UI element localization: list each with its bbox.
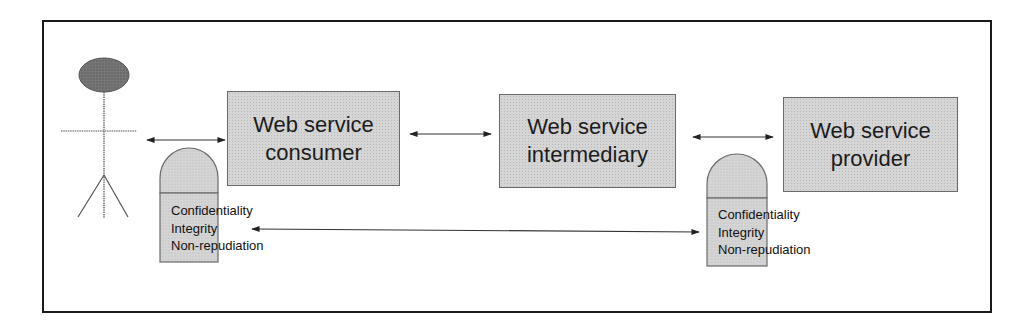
intermediary-label-line2: intermediary <box>527 141 648 169</box>
security-property-confidentiality: Confidentiality <box>171 202 264 220</box>
user-actor-icon <box>61 58 137 218</box>
consumer-label-line2: consumer <box>253 139 374 167</box>
security-property-non-repudiation: Non-repudiation <box>171 237 264 255</box>
web-service-provider-box: Web service provider <box>783 97 958 192</box>
consumer-label-line1: Web service <box>253 111 374 139</box>
intermediary-label-line1: Web service <box>527 113 648 141</box>
security-property-confidentiality: Confidentiality <box>718 206 811 224</box>
security-property-non-repudiation: Non-repudiation <box>718 241 811 259</box>
consumer-shield-label: Confidentiality Integrity Non-repudiatio… <box>171 202 264 255</box>
end-to-end-security-arrow <box>252 229 699 232</box>
provider-label-line1: Web service <box>810 117 931 145</box>
provider-label-line2: provider <box>810 145 931 173</box>
web-service-consumer-box: Web service consumer <box>227 91 400 186</box>
provider-shield-label: Confidentiality Integrity Non-repudiatio… <box>718 206 811 259</box>
security-property-integrity: Integrity <box>718 224 811 242</box>
web-service-intermediary-box: Web service intermediary <box>499 94 676 188</box>
security-property-integrity: Integrity <box>171 220 264 238</box>
